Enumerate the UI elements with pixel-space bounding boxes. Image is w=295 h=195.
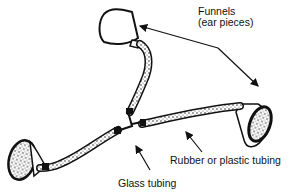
rubber-tubing-pointer xyxy=(186,132,202,152)
label-funnels-line2: (ear pieces) xyxy=(198,17,253,28)
funnel-chestpiece xyxy=(4,137,46,182)
funnel-right xyxy=(236,104,276,147)
glass-y-tube xyxy=(42,108,146,170)
label-funnels: Funnels (ear pieces) xyxy=(198,6,253,28)
funnel-top xyxy=(100,9,143,48)
glass-tubing-pointer xyxy=(136,146,150,170)
label-rubber-tubing: Rubber or plastic tubing xyxy=(170,155,281,166)
label-glass-tubing: Glass tubing xyxy=(118,178,176,189)
funnel-pointers xyxy=(140,26,258,86)
